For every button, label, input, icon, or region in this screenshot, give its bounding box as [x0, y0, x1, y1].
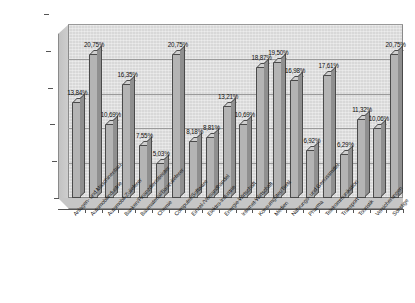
x-axis-tick-mark — [303, 209, 304, 213]
x-axis-category-label: Touristik — [357, 198, 375, 217]
x-axis-tick-mark — [135, 209, 136, 213]
x-axis-category-label: Medien — [273, 200, 289, 217]
bar-chart: 0,00%5,00%10,00%15,00%20,00%25,00% 13,84… — [0, 0, 415, 303]
x-axis-tick-mark — [169, 209, 170, 213]
x-axis-tick-mark — [102, 209, 103, 213]
x-axis-tick-mark — [403, 209, 404, 213]
x-axis-tick-mark — [386, 209, 387, 213]
x-axis-tick-mark — [252, 209, 253, 213]
x-axis-tick-mark — [185, 209, 186, 213]
x-axis-tick-mark — [269, 209, 270, 213]
x-axis-tick-mark — [219, 209, 220, 213]
x-axis-tick-mark — [152, 209, 153, 213]
x-axis-tick-mark — [336, 209, 337, 213]
x-axis-category-label: Chemie — [156, 199, 173, 217]
x-axis-tick-mark — [202, 209, 203, 213]
x-axis-tick-mark — [85, 209, 86, 213]
x-axis-tick-mark — [353, 209, 354, 213]
x-axis-tick-mark — [370, 209, 371, 213]
x-axis-tick-mark — [319, 209, 320, 213]
x-axis-tick-mark — [118, 209, 119, 213]
plot-area: 0,00%5,00%10,00%15,00%20,00%25,00% 13,84… — [0, 0, 415, 303]
x-axis-category-label: Pharma — [307, 199, 324, 217]
x-axis-tick-mark — [286, 209, 287, 213]
x-axis-tick-mark — [236, 209, 237, 213]
x-axis-labels: Anlagen- und MaschinenbauAutomobilindust… — [0, 0, 415, 303]
